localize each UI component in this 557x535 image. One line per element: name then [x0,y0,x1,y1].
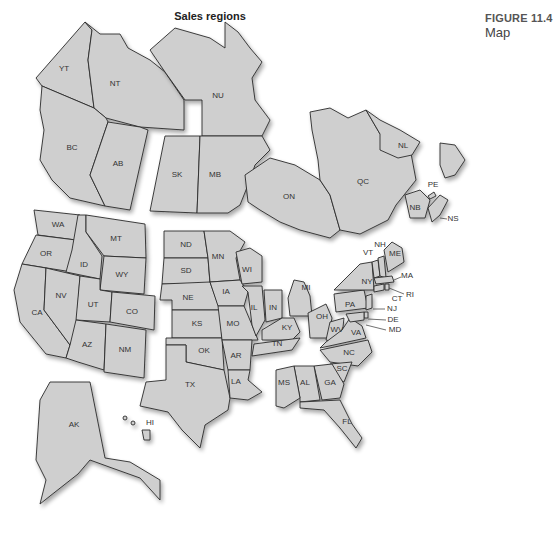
label-NC: NC [343,348,355,357]
sales-regions-map: YT NT NU BC AB SK MB ON QC NL PE NB NS W… [0,0,557,535]
label-NV: NV [55,291,67,300]
label-NS: NS [447,214,458,223]
label-DE: DE [387,315,398,324]
label-RI: RI [406,290,414,299]
region-NS[interactable] [428,195,448,222]
label-KS: KS [192,319,203,328]
label-PA: PA [345,300,356,309]
label-TX: TX [185,380,196,389]
label-MO: MO [227,319,240,328]
label-WV: WV [331,325,345,334]
label-WA: WA [52,220,65,229]
label-MI: MI [302,283,311,292]
label-AK: AK [69,420,80,429]
region-eastern-canada[interactable] [245,108,465,238]
label-ID: ID [80,260,88,269]
label-NY: NY [361,277,373,286]
label-MA: MA [401,271,414,280]
region-CT[interactable] [374,284,384,292]
label-OR: OR [40,249,52,258]
region-FL[interactable] [300,400,362,448]
label-ND: ND [180,240,192,249]
label-MN: MN [212,252,225,261]
label-WY: WY [116,270,130,279]
label-CO: CO [126,307,138,316]
label-KY: KY [282,323,293,332]
label-NU: NU [212,91,224,100]
label-AB: AB [113,159,124,168]
label-IL: IL [251,303,258,312]
label-VT: VT [363,248,373,257]
label-LA: LA [231,377,241,386]
label-NM: NM [119,345,132,354]
label-SD: SD [180,266,191,275]
label-MS: MS [278,378,290,387]
label-VA: VA [351,328,362,337]
region-western-us[interactable] [14,210,155,378]
label-OH: OH [316,312,328,321]
label-IA: IA [222,287,230,296]
label-NB: NB [409,203,420,212]
label-IN: IN [269,303,277,312]
label-HI: HI [146,418,154,427]
region-NJ[interactable] [366,294,372,310]
label-ME: ME [389,249,401,258]
label-ON: ON [283,192,295,201]
label-AL: AL [300,378,310,387]
label-AZ: AZ [82,340,92,349]
label-NL: NL [398,141,409,150]
label-YT: YT [59,64,69,73]
label-NJ: NJ [387,304,397,313]
region-PE[interactable] [428,192,436,199]
region-HI[interactable] [142,430,150,440]
label-QC: QC [357,177,369,186]
label-SC: SC [336,364,347,373]
label-FL: FL [342,417,352,426]
label-CA: CA [31,308,43,317]
region-HI-island[interactable] [123,416,127,420]
label-GA: GA [324,378,336,387]
label-MD: MD [389,325,402,334]
label-NE: NE [182,293,193,302]
label-TN: TN [272,339,283,348]
region-central-us[interactable] [140,231,312,448]
label-UT: UT [88,300,99,309]
region-RI[interactable] [385,284,389,290]
label-WI: WI [242,265,252,274]
region-DE[interactable] [364,312,368,318]
region-HI-island[interactable] [131,421,135,425]
label-PE: PE [428,180,439,189]
label-SK: SK [172,170,183,179]
label-OK: OK [198,346,210,355]
label-AR: AR [230,351,241,360]
label-MT: MT [110,234,122,243]
label-BC: BC [66,143,77,152]
label-NT: NT [110,79,121,88]
label-MB: MB [209,170,221,179]
label-NH: NH [374,240,386,249]
region-NL-island[interactable] [440,143,465,178]
label-CT: CT [392,294,403,303]
